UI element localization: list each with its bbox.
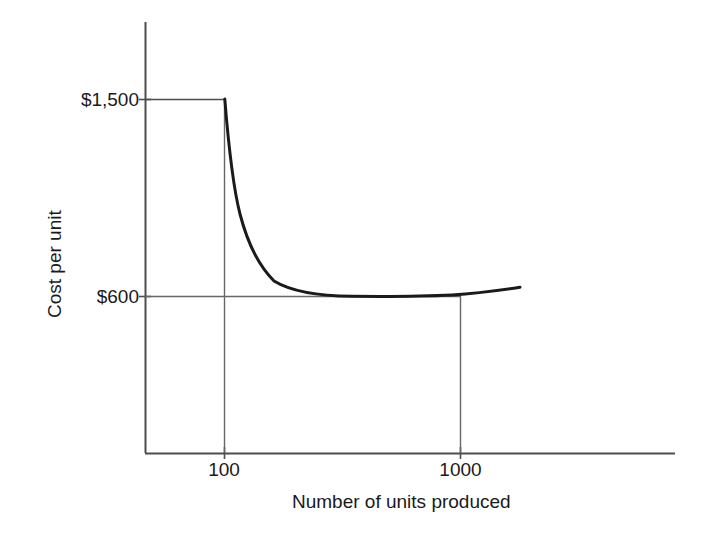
chart-plot-area: [0, 0, 707, 537]
x-tick-label-1000: 1000: [433, 460, 488, 479]
y-tick-label-1500: $1,500: [81, 90, 139, 109]
cost-per-unit-chart: $1,500 $600 100 1000 Number of units pro…: [0, 0, 707, 537]
y-axis-title: Cost per unit: [45, 210, 64, 318]
cost-curve: [225, 99, 520, 296]
y-tick-label-600: $600: [97, 287, 139, 306]
x-tick-label-100: 100: [204, 460, 244, 479]
x-axis-title: Number of units produced: [292, 492, 511, 511]
